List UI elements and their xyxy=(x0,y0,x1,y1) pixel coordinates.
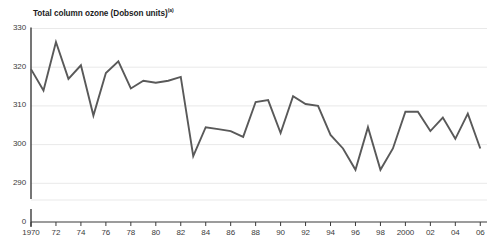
x-axis-tick-label: 84 xyxy=(201,228,210,237)
x-axis-tick-label: 82 xyxy=(176,228,185,237)
x-axis-tick-label: 06 xyxy=(476,228,485,237)
x-axis-tick-label: 96 xyxy=(351,228,360,237)
x-axis-tick-label: 90 xyxy=(276,228,285,237)
x-axis-tick-label: 86 xyxy=(226,228,235,237)
plot-area xyxy=(0,0,491,244)
x-axis-tick-label: 80 xyxy=(151,228,160,237)
x-axis-tick-label: 74 xyxy=(77,228,86,237)
x-axis-tick-label: 72 xyxy=(52,228,61,237)
x-axis-tick-label: 02 xyxy=(426,228,435,237)
x-axis-tick-label: 78 xyxy=(126,228,135,237)
x-axis-tick-label: 2000 xyxy=(397,228,414,237)
x-axis-tick-label: 98 xyxy=(376,228,385,237)
x-axis-tick-label: 94 xyxy=(326,228,335,237)
x-axis-tick-label: 92 xyxy=(301,228,310,237)
x-axis-tick-label: 04 xyxy=(451,228,460,237)
ozone-line-chart: ··· ···· ····· · Total column ozone (Dob… xyxy=(0,0,491,244)
x-axis-tick-label: 1970 xyxy=(22,228,39,237)
x-axis-tick-label: 88 xyxy=(251,228,260,237)
x-axis-tick-label: 76 xyxy=(102,228,111,237)
